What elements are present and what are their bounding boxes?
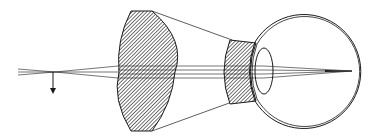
ray-bundle — [18, 66, 352, 78]
crystalline-lens — [255, 48, 273, 94]
optical-diagram: Telescopic spectacle (Galilean) magnifie… — [0, 0, 369, 138]
arrow-down-icon — [50, 88, 56, 94]
eyepiece-lens — [224, 40, 256, 104]
objective-lens — [117, 11, 178, 131]
object-arrow — [50, 72, 56, 94]
diagram-canvas — [0, 0, 369, 138]
